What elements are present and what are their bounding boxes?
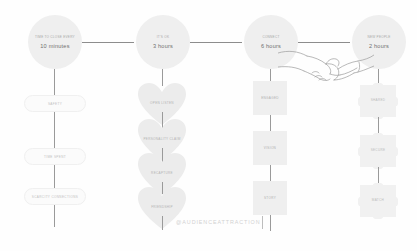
node-label: RECAPTURE (137, 171, 187, 175)
node-label: FRIENDSHIP (137, 205, 187, 209)
node-col3-2[interactable]: STORY (253, 181, 287, 215)
node-col1-2[interactable]: SCARCITY CONNECTIONS (24, 188, 86, 205)
node-col4-1[interactable]: SECURE (358, 133, 398, 169)
connector-col2-col3 (190, 42, 242, 43)
watermark-text: @AUDIENCEATTRACTION (176, 219, 260, 225)
node-col3-1[interactable]: VISION (253, 131, 287, 165)
node-label: OPEN LISTEN (137, 101, 187, 105)
header-node-column-1[interactable]: TIME TO CLOSE EVERY 10 minutes (28, 15, 82, 69)
diagram-canvas: TIME TO CLOSE EVERY 10 minutes SAFETY TI… (0, 0, 417, 251)
node-col1-1[interactable]: TIME SPENT (24, 148, 86, 165)
connector-vertical (54, 165, 55, 190)
header-node-value: 3 hours (153, 43, 173, 49)
node-label: ENGAGED (261, 96, 279, 100)
connector-vertical (54, 205, 55, 227)
node-label: SECURE (358, 148, 398, 152)
node-label: SCARCITY CONNECTIONS (32, 195, 78, 199)
header-node-title: TIME TO CLOSE EVERY (35, 35, 75, 39)
header-node-value: 10 minutes (40, 43, 69, 49)
text-cursor (262, 216, 263, 229)
node-label: STORY (264, 196, 276, 200)
node-label: MATCH (358, 198, 398, 202)
node-label: TIME SPENT (44, 155, 66, 159)
header-node-column-2[interactable]: IT'S OK 3 hours (136, 15, 190, 69)
node-label: SHARED (358, 98, 398, 102)
connector-col1-col2 (82, 42, 134, 43)
node-label: SAFETY (48, 102, 62, 106)
connector-vertical (162, 216, 163, 230)
header-node-title: IT'S OK (157, 35, 169, 39)
node-col1-0[interactable]: SAFETY (24, 95, 86, 112)
connector-vertical (270, 215, 271, 231)
header-node-title: CONNECT (262, 35, 279, 39)
holding-hands-illustration (278, 36, 374, 90)
node-label: PERSONALITY CLAIM (137, 137, 187, 141)
node-label: VISION (264, 146, 276, 150)
node-col4-2[interactable]: MATCH (358, 183, 398, 219)
